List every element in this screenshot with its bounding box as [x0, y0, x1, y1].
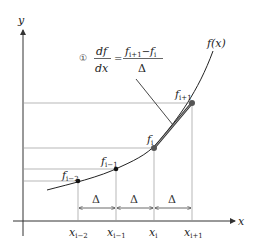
label-f-i: fi [146, 133, 154, 147]
formula-rhs-numerator: fi+1−fi [124, 45, 157, 59]
x-axis-label: x [238, 215, 245, 228]
label-f-i-minus-2: fi−2 [61, 169, 79, 183]
tick-x-i: xi [149, 226, 158, 240]
delta-label-3: Δ [168, 193, 176, 206]
formula-equals: = [114, 53, 122, 64]
formula-rhs-denominator: Δ [138, 62, 146, 75]
formula-lhs-denominator: dx [95, 62, 109, 75]
formula-pointer [136, 79, 173, 125]
delta-label-1: Δ [92, 193, 100, 206]
delta-label-2: Δ [130, 193, 138, 206]
curve-label: f(x) [206, 37, 226, 50]
diagram-canvas: y x Δ Δ Δ f(x) fi−2 fi−1 fi [0, 0, 257, 246]
formula-marker: ① [79, 53, 87, 63]
y-axis-label: y [17, 14, 25, 27]
formula: ① df dx = fi+1−fi Δ [79, 45, 163, 75]
secant-line-inner [154, 103, 192, 148]
tick-x-i-minus-2: xi−2 [69, 226, 88, 240]
label-f-i-minus-1: fi−1 [100, 155, 118, 169]
tick-x-i-minus-1: xi−1 [107, 226, 126, 240]
formula-lhs-numerator: df [96, 45, 109, 58]
horizontal-guides [23, 103, 192, 181]
tick-x-i-plus-1: xi+1 [184, 226, 203, 240]
label-f-i-plus-1: fi+1 [174, 88, 192, 102]
